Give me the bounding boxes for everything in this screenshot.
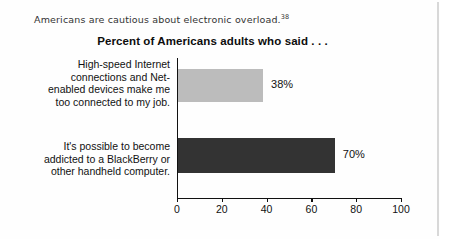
x-tick-label-20: 20 [216,203,228,215]
x-tick-80 [356,198,357,202]
bar-series-1 [178,138,335,173]
bar-series-0 [178,69,263,102]
page-edge-line [437,2,439,236]
plot-area: High-speed Internet connections and Net-… [0,30,430,230]
x-tick-label-60: 60 [306,203,318,215]
page-background: Americans are cautious about electronic … [0,0,459,239]
figure-caption: Americans are cautious about electronic … [34,14,289,25]
caption-footnote-marker: 38 [281,13,290,21]
category-label-0-line-1: connections and Net- [10,71,170,84]
x-tick-100 [401,198,402,202]
category-label-0-line-0: High-speed Internet [10,58,170,71]
x-tick-40 [267,198,268,202]
category-label-1-line-1: addicted to a BlackBerry or [10,153,170,166]
x-tick-60 [311,198,312,202]
caption-text: Americans are cautious about electronic … [34,14,281,25]
x-tick-label-80: 80 [350,203,362,215]
x-tick-0 [177,198,178,202]
x-tick-label-100: 100 [392,203,410,215]
page-margin [440,0,459,239]
category-label-1: It's possible to become addicted to a Bl… [10,140,170,178]
category-label-0-line-2: enabled devices make me [10,83,170,96]
x-axis-line [177,198,401,199]
category-label-0: High-speed Internet connections and Net-… [10,58,170,108]
bar-value-label-1: 70% [343,148,365,160]
category-label-0-line-3: too connected to my job. [10,96,170,109]
category-label-1-line-0: It's possible to become [10,140,170,153]
bar-chart: Percent of Americans adults who said . .… [0,30,430,230]
x-tick-label-40: 40 [261,203,273,215]
category-label-1-line-2: other handheld computer. [10,165,170,178]
y-axis-line [177,58,178,199]
x-tick-20 [222,198,223,202]
bar-value-label-0: 38% [271,78,293,90]
x-tick-label-0: 0 [174,203,180,215]
